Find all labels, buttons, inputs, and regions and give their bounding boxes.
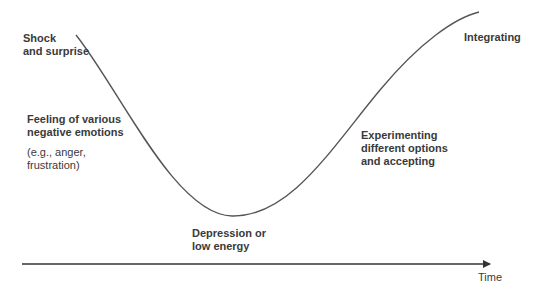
stage-label-line: Depression or (192, 227, 266, 240)
stage-label-line: low energy (192, 240, 266, 253)
stage-label-integrating: Integrating (464, 31, 521, 44)
stage-label-shock: Shock and surprise (23, 32, 89, 58)
change-curve-line (76, 12, 479, 216)
stage-label-line: Feeling of various (27, 113, 124, 126)
time-axis-label: Time (478, 271, 502, 284)
stage-label-line: Experimenting (361, 129, 448, 142)
stage-label-line: Shock (23, 32, 89, 45)
stage-label-line: negative emotions (27, 126, 124, 139)
stage-label-line: Integrating (464, 31, 521, 44)
stage-note-line: frustration) (27, 159, 86, 172)
stage-note-negative-emotions: (e.g., anger, frustration) (27, 146, 86, 172)
stage-note-line: (e.g., anger, (27, 146, 86, 159)
stage-label-negative-emotions: Feeling of various negative emotions (27, 113, 124, 139)
stage-label-line: different options (361, 142, 448, 155)
stage-label-depression: Depression or low energy (192, 227, 266, 253)
change-curve-diagram: Shock and surprise Feeling of various ne… (0, 0, 538, 295)
axis-label-text: Time (478, 271, 502, 284)
stage-label-line: and accepting (361, 155, 448, 168)
stage-label-experimenting: Experimenting different options and acce… (361, 129, 448, 168)
stage-label-line: and surprise (23, 45, 89, 58)
